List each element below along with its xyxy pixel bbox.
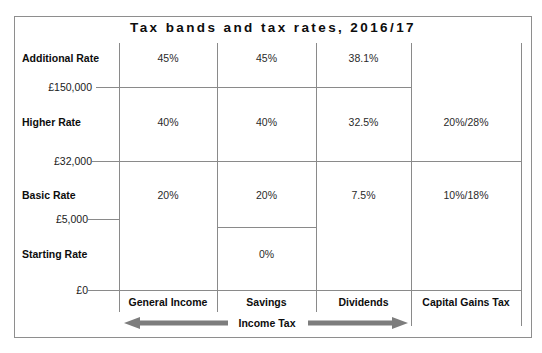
cell-dividends-additional: 38.1%: [316, 52, 411, 64]
threshold-label-32000: £32,000: [14, 155, 92, 167]
column-divider-right: [521, 43, 522, 290]
cell-dividends-basic: 7.5%: [316, 189, 411, 201]
cell-savings-additional: 45%: [217, 52, 316, 64]
tax-bands-figure: Tax bands and tax rates, 2016/17 Additio…: [0, 0, 542, 353]
span-caption-income-tax: Income Tax: [228, 317, 306, 329]
header-divider-right: [521, 290, 522, 326]
band-label-basic-rate: Basic Rate: [22, 189, 118, 201]
column-divider-cgt: [411, 43, 412, 290]
cell-savings-higher: 40%: [217, 116, 316, 128]
cell-general-income-higher: 40%: [119, 116, 217, 128]
cell-capital-gains-basic: 10%/18%: [411, 189, 521, 201]
cell-general-income-additional: 45%: [119, 52, 217, 64]
column-header-dividends: Dividends: [316, 296, 411, 308]
threshold-line-0: [88, 290, 522, 291]
threshold-line-5000-stub: [88, 219, 120, 220]
column-header-savings: Savings: [217, 296, 316, 308]
band-label-starting-rate: Starting Rate: [22, 248, 118, 260]
page-title: Tax bands and tax rates, 2016/17: [14, 20, 532, 35]
threshold-line-32000: [92, 161, 522, 162]
income-tax-arrow-left: [124, 316, 228, 330]
column-header-general-income: General Income: [119, 296, 217, 308]
cell-capital-gains-higher: 20%/28%: [411, 116, 521, 128]
threshold-line-150000: [96, 87, 412, 88]
band-label-additional-rate: Additional Rate: [22, 52, 118, 64]
threshold-label-5000: £5,000: [10, 213, 88, 225]
column-header-capital-gains-tax: Capital Gains Tax: [411, 296, 521, 308]
column-divider-dividends: [316, 43, 317, 290]
threshold-line-5000-savings: [217, 227, 317, 228]
cell-savings-starting: 0%: [217, 248, 316, 260]
cell-savings-basic: 20%: [217, 189, 316, 201]
threshold-label-0: £0: [10, 284, 88, 296]
threshold-label-150000: £150,000: [14, 81, 92, 93]
cell-dividends-higher: 32.5%: [316, 116, 411, 128]
band-label-higher-rate: Higher Rate: [22, 116, 118, 128]
cell-general-income-basic: 20%: [119, 189, 217, 201]
income-tax-arrow-right: [308, 316, 408, 330]
column-divider-left: [119, 43, 120, 290]
